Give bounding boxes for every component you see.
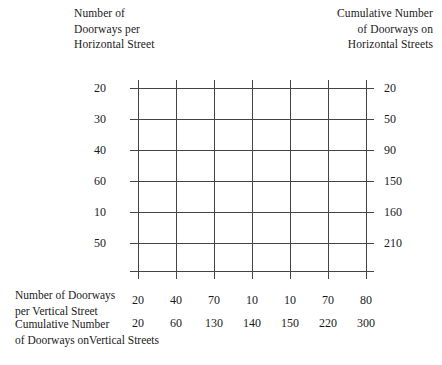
gridline-vertical [252,80,253,279]
row-label-left: 60 [64,175,106,187]
row-label-right: 150 [384,175,426,187]
column-cumulative-label: 60 [159,317,193,329]
column-label: 20 [121,294,155,306]
row-label-left: 10 [64,206,106,218]
gridline-horizontal [130,88,374,89]
row-label-right: 50 [384,113,426,125]
figure-grid-doorways: Number of Doorways per Horizontal Street… [0,0,442,365]
gridline-horizontal [130,271,374,272]
column-label: 40 [159,294,193,306]
gridline-vertical [290,80,291,279]
column-label: 10 [235,294,269,306]
gridline-vertical [366,80,367,279]
gridline-vertical [138,80,139,279]
gridline-vertical [328,80,329,279]
caption-bottom-row2: Cumulative Number of Doorways onVertical… [15,317,159,348]
gridline-horizontal [130,212,374,213]
column-cumulative-label: 220 [311,317,345,329]
row-label-left: 30 [64,113,106,125]
row-label-left: 20 [64,82,106,94]
row-label-left: 40 [64,144,106,156]
gridline-vertical [176,80,177,279]
column-label: 70 [197,294,231,306]
column-cumulative-label: 300 [349,317,383,329]
row-label-right: 210 [384,237,426,249]
gridline-horizontal [130,150,374,151]
row-label-left: 50 [64,237,106,249]
column-cumulative-label: 130 [197,317,231,329]
column-label: 80 [349,294,383,306]
caption-bottom-row1: Number of Doorways per Vertical Street [15,288,115,319]
row-label-right: 90 [384,144,426,156]
row-label-right: 20 [384,82,426,94]
gridline-horizontal [130,243,374,244]
column-label: 10 [273,294,307,306]
row-label-right: 160 [384,206,426,218]
column-label: 70 [311,294,345,306]
column-cumulative-label: 150 [273,317,307,329]
column-cumulative-label: 140 [235,317,269,329]
gridline-horizontal [130,119,374,120]
gridline-horizontal [130,181,374,182]
gridline-vertical [214,80,215,279]
